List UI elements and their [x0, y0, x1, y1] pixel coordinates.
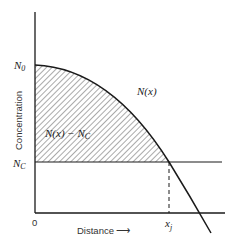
junction-label: xj: [164, 217, 173, 232]
y-axis-label: Concentration: [13, 91, 24, 150]
nc-label: NC: [12, 157, 26, 171]
x-axis-label: Distance: [77, 225, 114, 236]
n0-label: N0: [13, 59, 25, 73]
x-axis-arrow-icon: ⟶: [116, 225, 130, 236]
diffusion-profile-diagram: N0 NC N(x) N(x) − NC xj 0 Distance ⟶ Con…: [0, 0, 235, 249]
origin-label: 0: [32, 217, 37, 228]
shaded-region: [35, 60, 175, 165]
shaded-region-label: N(x) − NC: [44, 127, 91, 141]
curve-label: N(x): [136, 85, 157, 98]
